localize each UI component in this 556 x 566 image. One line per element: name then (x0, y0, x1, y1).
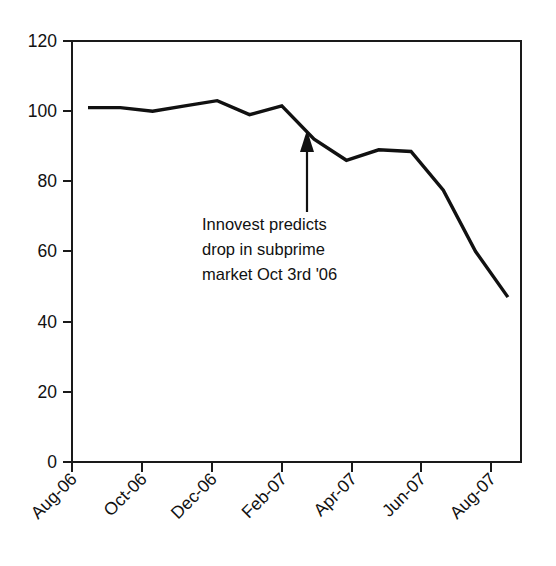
x-axis-label-aug-07: Aug-07 (446, 469, 500, 523)
x-axis-label-oct-06: Oct-06 (100, 469, 151, 520)
x-axis-label-apr-07: Apr-07 (310, 469, 361, 520)
x-axis-label-aug-06: Aug-06 (27, 469, 81, 523)
x-axis-labels: Aug-06 Oct-06 Dec-06 Feb-07 Apr-07 Jun-0… (27, 469, 500, 523)
annotation-line-1: Innovest predicts (202, 215, 327, 233)
y-axis-label-80: 80 (38, 171, 58, 191)
y-axis-label-100: 100 (28, 101, 57, 121)
arrow-head-icon (300, 130, 314, 152)
x-axis-label-dec-06: Dec-06 (167, 469, 221, 523)
annotation-text: Innovest predicts drop in subprime marke… (202, 215, 337, 283)
y-axis-labels: 120 100 80 60 40 20 0 (28, 31, 57, 472)
y-axis-label-40: 40 (38, 312, 58, 332)
chart-figure: 120 100 80 60 40 20 0 Aug-06 Oct-06 Dec-… (0, 0, 556, 566)
y-axis-label-0: 0 (47, 452, 57, 472)
annotation-line-2: drop in subprime (202, 240, 325, 258)
y-axis-label-120: 120 (28, 31, 57, 51)
x-axis-label-feb-07: Feb-07 (237, 469, 290, 522)
y-axis-ticks (63, 41, 72, 462)
chart-canvas: 120 100 80 60 40 20 0 Aug-06 Oct-06 Dec-… (0, 0, 556, 566)
x-axis-label-jun-07: Jun-07 (378, 469, 430, 521)
y-axis-label-20: 20 (38, 382, 58, 402)
annotation-arrow (300, 130, 314, 212)
annotation-line-3: market Oct 3rd '06 (202, 265, 337, 283)
y-axis-label-60: 60 (38, 241, 58, 261)
